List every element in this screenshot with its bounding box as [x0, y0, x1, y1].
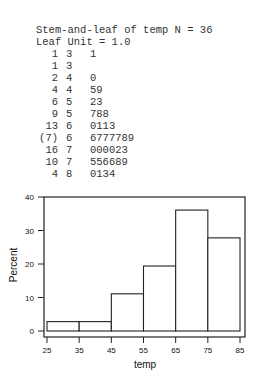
x-tick-label: 85	[236, 346, 245, 355]
histogram-bar	[208, 238, 240, 331]
histogram-bar	[79, 322, 111, 331]
x-tick-label: 75	[203, 346, 212, 355]
x-tick-label: 35	[75, 346, 84, 355]
x-axis-label: temp	[134, 359, 157, 370]
x-tick-label: 55	[139, 346, 148, 355]
y-tick-label: 0	[30, 327, 35, 336]
histogram-bar	[144, 266, 176, 331]
histogram-chart: 010203040 25354555657585 temp Percent	[0, 0, 256, 381]
histogram-bars	[47, 210, 240, 331]
x-axis: 25354555657585	[43, 337, 245, 355]
x-tick-label: 45	[107, 346, 116, 355]
x-tick-label: 25	[43, 346, 52, 355]
y-tick-label: 10	[25, 294, 34, 303]
x-tick-label: 65	[171, 346, 180, 355]
histogram-bar	[47, 322, 79, 331]
y-axis-label: Percent	[8, 248, 19, 283]
y-axis: 010203040	[25, 193, 44, 336]
y-tick-label: 20	[25, 260, 34, 269]
y-tick-label: 30	[25, 227, 34, 236]
histogram-bar	[111, 294, 143, 331]
y-tick-label: 40	[25, 193, 34, 202]
histogram-bar	[176, 210, 208, 331]
